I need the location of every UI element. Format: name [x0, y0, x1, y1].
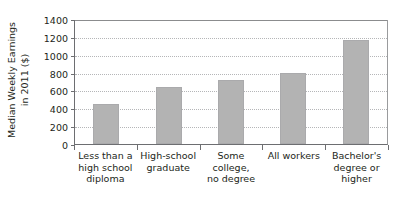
y-tick-label: 800	[50, 68, 68, 79]
x-tick-label-line: High-school	[137, 150, 200, 162]
x-tick-label-line: no degree	[200, 173, 263, 185]
bar-slot	[75, 20, 137, 144]
x-tick-label-line: All workers	[262, 150, 325, 162]
y-tick-label: 1400	[44, 15, 68, 26]
bar-chart-figure: Median Weekly Earnings in 2011 ($) 02004…	[0, 0, 404, 199]
y-tick-label: 1000	[44, 50, 68, 61]
x-axis-tick-labels: Less than ahigh schooldiplomaHigh-school…	[74, 150, 388, 185]
x-tick-label-line: higher	[325, 173, 388, 185]
y-axis-title-line-2: in 2011 ($)	[18, 22, 31, 138]
x-tick-mark	[388, 145, 389, 150]
x-tick-label-line: degree or	[325, 162, 388, 174]
y-axis-title: Median Weekly Earnings in 2011 ($)	[0, 0, 36, 160]
y-axis-title-text: Median Weekly Earnings in 2011 ($)	[6, 22, 31, 138]
bar-slot	[200, 20, 262, 144]
y-axis-tick-labels: 0200400600800100012001400	[36, 14, 70, 146]
y-axis-title-line-1: Median Weekly Earnings	[6, 22, 19, 138]
x-tick-label: All workers	[262, 150, 325, 185]
y-tick-label: 200	[50, 122, 68, 133]
y-tick-label: 600	[50, 86, 68, 97]
y-tick-label: 0	[62, 140, 68, 151]
bar	[93, 104, 119, 144]
y-tick-label: 1200	[44, 32, 68, 43]
x-tick-label-line: high school	[74, 162, 137, 174]
bar-slot	[325, 20, 387, 144]
x-tick-label: High-schoolgraduate	[137, 150, 200, 185]
x-tick-label: Bachelor'sdegree orhigher	[325, 150, 388, 185]
x-tick-label-line: Some college,	[200, 150, 263, 173]
x-tick-label-line: Less than a	[74, 150, 137, 162]
x-tick-label-line: graduate	[137, 162, 200, 174]
x-tick-label-line: Bachelor's	[325, 150, 388, 162]
x-tick-label: Less than ahigh schooldiploma	[74, 150, 137, 185]
bar	[156, 87, 182, 144]
x-tick-label-line: diploma	[74, 173, 137, 185]
y-tick-label: 400	[50, 104, 68, 115]
bar-slot	[262, 20, 324, 144]
bar-series	[75, 20, 387, 144]
bar	[280, 73, 306, 144]
plot-area	[74, 20, 388, 145]
bar	[218, 80, 244, 144]
bar-slot	[137, 20, 199, 144]
bar	[343, 40, 369, 144]
x-tick-label: Some college,no degree	[200, 150, 263, 185]
